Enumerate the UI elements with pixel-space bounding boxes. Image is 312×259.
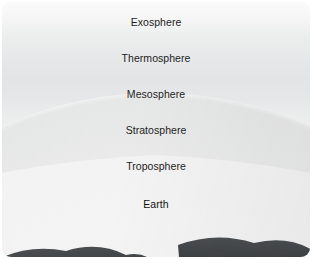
label-stratosphere: Stratosphere — [2, 125, 310, 136]
label-troposphere: Troposphere — [2, 161, 310, 172]
atmosphere-layers-figure: Exosphere Thermosphere Mesosphere Strato… — [0, 0, 312, 259]
globe-shading — [2, 93, 310, 257]
label-mesosphere: Mesosphere — [2, 89, 310, 100]
figure-image-card: Exosphere Thermosphere Mesosphere Strato… — [2, 2, 310, 257]
label-thermosphere: Thermosphere — [2, 53, 310, 64]
label-exosphere: Exosphere — [2, 17, 310, 28]
label-earth: Earth — [2, 199, 310, 210]
earth-globe — [2, 93, 310, 257]
